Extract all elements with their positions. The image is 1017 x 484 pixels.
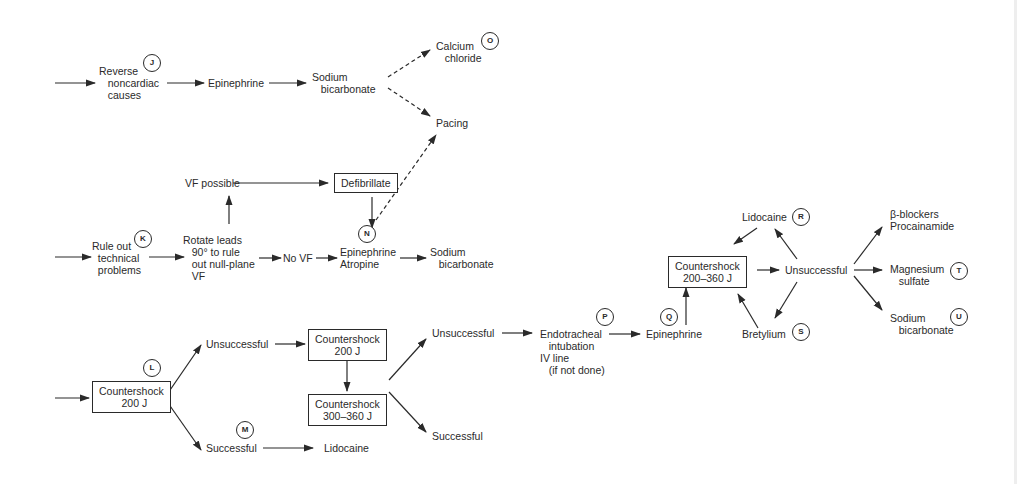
node-successful-1: Successful — [206, 442, 257, 454]
node-countershock-200-second: Countershock 200 J — [308, 329, 387, 361]
node-sodium-bicarbonate-top: Sodium bicarbonate — [312, 71, 376, 95]
badge-u: U — [950, 308, 968, 326]
node-lidocaine-r: Lidocaine — [742, 211, 787, 223]
node-no-vf: No VF — [283, 252, 313, 264]
node-beta-blockers-procainamide: β-blockers Procainamide — [890, 208, 954, 232]
badge-r: R — [792, 208, 810, 226]
node-countershock-200-360: Countershock 200–360 J — [668, 256, 747, 288]
node-successful-2: Successful — [432, 430, 483, 442]
badge-l: L — [143, 359, 161, 377]
node-endotracheal-intubation: Endotracheal intubation IV line (if not … — [540, 328, 605, 376]
node-rule-out-technical: Rule out technical problems — [92, 240, 141, 276]
node-unsuccessful-2: Unsuccessful — [432, 327, 494, 339]
badge-j: J — [143, 54, 161, 72]
badge-k: K — [134, 230, 152, 248]
node-pacing: Pacing — [436, 117, 468, 129]
badge-o: O — [481, 32, 499, 50]
node-bretylium: Bretylium — [742, 328, 786, 340]
badge-q: Q — [660, 308, 678, 326]
node-unsuccessful-1: Unsuccessful — [206, 338, 268, 350]
badge-s: S — [792, 323, 810, 341]
node-vf-possible: VF possible — [185, 177, 240, 189]
node-rotate-leads: Rotate leads 90° to rule out null-plane … — [183, 234, 255, 282]
badge-n: N — [358, 225, 376, 243]
node-sodium-bicarbonate-mid: Sodium bicarbonate — [430, 246, 494, 270]
node-epinephrine-top: Epinephrine — [208, 77, 264, 89]
badge-m: M — [236, 421, 254, 439]
node-epinephrine-q: Epinephrine — [646, 328, 702, 340]
node-lidocaine-bottom: Lidocaine — [324, 442, 369, 454]
node-calcium-chloride: Calcium chloride — [436, 40, 482, 64]
node-sodium-bicarbonate-u: Sodium bicarbonate — [890, 312, 954, 336]
badge-t: T — [950, 262, 968, 280]
node-epinephrine-atropine: Epinephrine Atropine — [340, 246, 396, 270]
node-defibrillate: Defibrillate — [334, 173, 398, 193]
badge-p: P — [596, 308, 614, 326]
node-magnesium-sulfate: Magnesium sulfate — [890, 263, 944, 287]
node-countershock-200-first: Countershock 200 J — [92, 381, 171, 413]
node-unsuccessful-3: Unsuccessful — [785, 264, 847, 276]
node-countershock-300-360: Countershock 300–360 J — [308, 394, 387, 426]
